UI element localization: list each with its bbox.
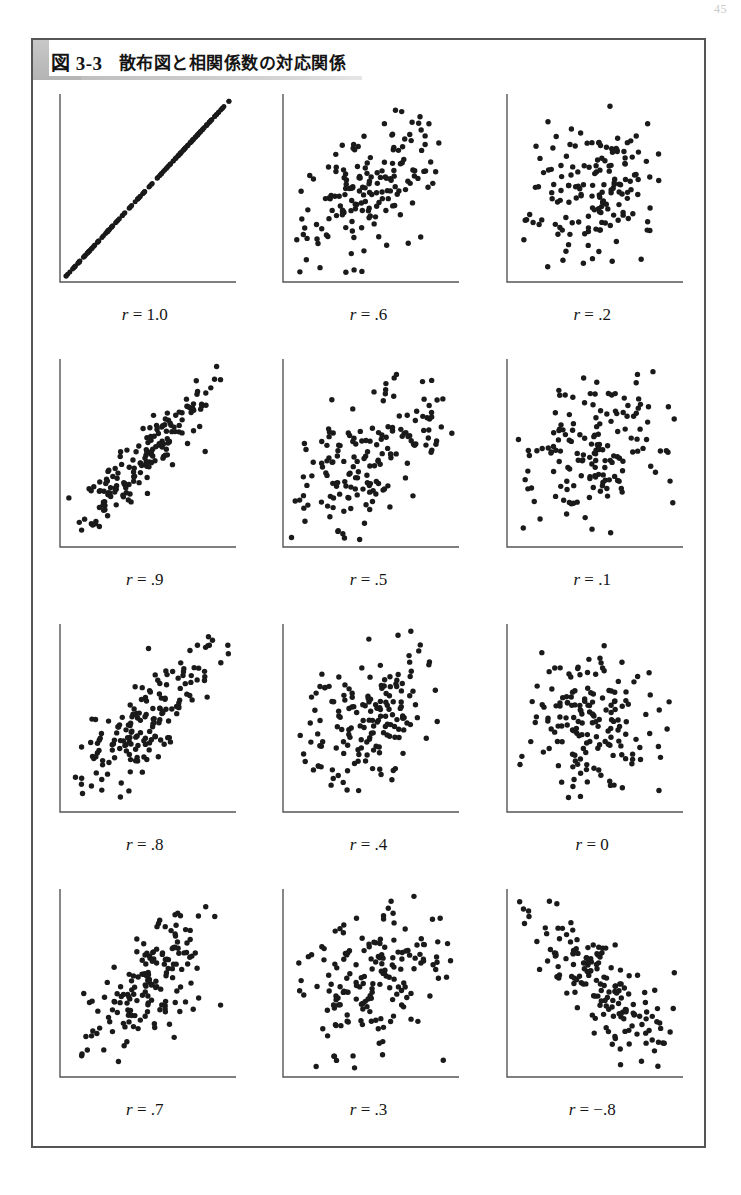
data-point bbox=[550, 196, 555, 201]
data-point bbox=[343, 697, 348, 702]
data-point bbox=[579, 980, 584, 985]
data-point bbox=[130, 457, 135, 462]
data-points bbox=[298, 629, 440, 794]
data-point bbox=[591, 434, 596, 439]
data-point bbox=[387, 693, 392, 698]
data-point bbox=[306, 502, 311, 507]
data-point bbox=[572, 777, 577, 782]
data-point bbox=[441, 396, 446, 401]
correlation-symbol: r bbox=[126, 1100, 133, 1119]
data-point bbox=[523, 218, 528, 223]
data-point bbox=[359, 737, 364, 742]
data-point bbox=[77, 259, 82, 264]
data-point bbox=[152, 1025, 157, 1030]
data-point bbox=[96, 489, 101, 494]
data-point bbox=[388, 1019, 393, 1024]
data-point bbox=[380, 451, 385, 456]
data-point bbox=[547, 746, 552, 751]
data-point bbox=[598, 143, 603, 148]
data-point bbox=[304, 447, 309, 452]
data-point bbox=[343, 682, 348, 687]
data-point bbox=[643, 712, 648, 717]
data-point bbox=[300, 216, 305, 221]
data-point bbox=[304, 257, 309, 262]
data-point bbox=[599, 988, 604, 993]
data-point bbox=[332, 1054, 337, 1059]
data-point bbox=[124, 1039, 129, 1044]
data-point bbox=[112, 755, 117, 760]
data-point bbox=[424, 442, 429, 447]
data-point bbox=[418, 234, 423, 239]
data-point bbox=[575, 451, 580, 456]
data-point bbox=[352, 704, 357, 709]
data-point bbox=[630, 449, 635, 454]
data-point bbox=[127, 702, 132, 707]
data-point bbox=[378, 982, 383, 987]
data-point bbox=[429, 450, 434, 455]
data-point bbox=[658, 448, 663, 453]
data-point bbox=[611, 453, 616, 458]
data-point bbox=[155, 176, 160, 181]
panel-label: r = .9 bbox=[126, 570, 163, 590]
data-point bbox=[179, 967, 184, 972]
data-point bbox=[145, 491, 150, 496]
data-point bbox=[132, 199, 137, 204]
data-point bbox=[88, 488, 93, 493]
equals-sign: = bbox=[133, 835, 151, 854]
data-point bbox=[382, 121, 387, 126]
data-point bbox=[581, 261, 586, 266]
equals-sign: = bbox=[575, 1100, 593, 1119]
data-point bbox=[657, 1020, 662, 1025]
data-point bbox=[656, 744, 661, 749]
data-point bbox=[124, 1000, 129, 1005]
data-point bbox=[422, 169, 427, 174]
data-point bbox=[657, 707, 662, 712]
data-point bbox=[372, 463, 377, 468]
data-point bbox=[305, 483, 310, 488]
data-point bbox=[624, 719, 629, 724]
data-point bbox=[133, 758, 138, 763]
data-point bbox=[129, 987, 134, 992]
data-point bbox=[177, 697, 182, 702]
data-point bbox=[368, 481, 373, 486]
data-point bbox=[618, 1046, 623, 1051]
data-point bbox=[108, 485, 113, 490]
data-point bbox=[559, 779, 564, 784]
data-point bbox=[350, 219, 355, 224]
data-point bbox=[409, 1016, 414, 1021]
data-point bbox=[563, 215, 568, 220]
data-point bbox=[387, 975, 392, 980]
data-point bbox=[571, 483, 576, 488]
data-point bbox=[636, 177, 641, 182]
data-point bbox=[380, 168, 385, 173]
data-point bbox=[521, 906, 526, 911]
data-point bbox=[546, 167, 551, 172]
data-point bbox=[385, 446, 390, 451]
data-point bbox=[170, 669, 175, 674]
data-point bbox=[202, 674, 207, 679]
data-point bbox=[582, 696, 587, 701]
data-point bbox=[607, 168, 612, 173]
data-point bbox=[336, 708, 341, 713]
data-point bbox=[392, 920, 397, 925]
data-point bbox=[395, 678, 400, 683]
data-point bbox=[531, 220, 536, 225]
data-point bbox=[602, 668, 607, 673]
data-point bbox=[368, 155, 373, 160]
data-point bbox=[586, 657, 591, 662]
data-point bbox=[397, 413, 402, 418]
data-point bbox=[212, 114, 217, 119]
data-point bbox=[105, 478, 110, 483]
data-point bbox=[585, 140, 590, 145]
data-point bbox=[181, 950, 186, 955]
data-point bbox=[90, 522, 95, 527]
data-point bbox=[334, 165, 339, 170]
data-point bbox=[430, 917, 435, 922]
data-point bbox=[97, 735, 102, 740]
data-point bbox=[195, 642, 200, 647]
data-point bbox=[325, 443, 330, 448]
data-point bbox=[556, 723, 561, 728]
data-point bbox=[153, 979, 158, 984]
data-point bbox=[608, 735, 613, 740]
data-point bbox=[336, 773, 341, 778]
